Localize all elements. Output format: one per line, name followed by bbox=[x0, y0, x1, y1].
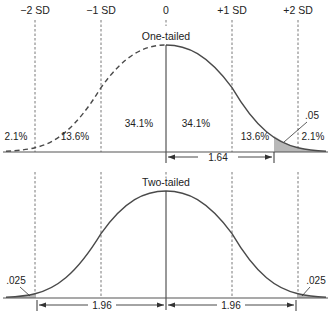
sd-axis-labels: −2 SD −1 SD 0 +1 SD +2 SD bbox=[20, 4, 313, 16]
two-tailed-left-alpha-label: .025 bbox=[6, 275, 26, 286]
pct-plus1-plus2: 13.6% bbox=[241, 131, 269, 142]
pct-right-tail: 2.1% bbox=[302, 131, 325, 142]
two-tailed-right-critical-value: 1.96 bbox=[221, 300, 241, 311]
two-tailed-right-alpha-label: .025 bbox=[306, 275, 326, 286]
two-tailed-title: Two-tailed bbox=[142, 176, 190, 188]
pct-zero-plus1: 34.1% bbox=[182, 118, 210, 129]
two-tailed-chart: Two-tailed .025 .025 1.96 1.96 bbox=[3, 176, 328, 311]
pct-minus1-zero: 34.1% bbox=[125, 118, 153, 129]
sd-label-minus-2: −2 SD bbox=[20, 4, 50, 16]
pct-minus2-minus1: 13.6% bbox=[61, 131, 89, 142]
one-tailed-title: One-tailed bbox=[142, 30, 191, 42]
two-tailed-left-critical-value: 1.96 bbox=[92, 300, 112, 311]
one-tailed-critical-value: 1.64 bbox=[208, 152, 228, 163]
left-tail-callout-line bbox=[20, 287, 30, 296]
one-tailed-alpha-label: .05 bbox=[305, 110, 319, 121]
sd-label-plus-1: +1 SD bbox=[217, 4, 247, 16]
one-tailed-chart: One-tailed 2.1% 13.6% 34.1% 34.1% 13.6% … bbox=[3, 30, 328, 163]
sd-label-zero: 0 bbox=[163, 4, 169, 16]
sd-label-plus-2: +2 SD bbox=[283, 4, 313, 16]
sd-label-minus-1: −1 SD bbox=[86, 4, 116, 16]
pct-left-tail: 2.1% bbox=[5, 131, 28, 142]
normal-distribution-figure: −2 SD −1 SD 0 +1 SD +2 SD One-tailed 2.1… bbox=[0, 0, 330, 318]
